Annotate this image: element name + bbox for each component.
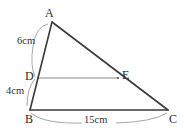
vertex-label-c: C: [169, 113, 177, 125]
vertex-label-e: E: [122, 69, 129, 81]
point-d-marker: [37, 77, 39, 79]
measurement-label-ad: 6cm: [17, 36, 35, 47]
vertex-label-a: A: [45, 7, 54, 19]
geometry-figure: A B C D E 6cm 4cm 15cm: [0, 0, 184, 138]
vertex-label-b: B: [25, 113, 33, 125]
measurement-label-bc: 15cm: [84, 115, 107, 126]
measurement-label-db: 4cm: [6, 86, 24, 97]
segment-ac: [52, 22, 168, 110]
point-e-marker: [117, 77, 119, 79]
brace-bc-right: [116, 113, 167, 123]
brace-bc-left: [31, 113, 82, 123]
vertex-label-d: D: [25, 70, 34, 82]
